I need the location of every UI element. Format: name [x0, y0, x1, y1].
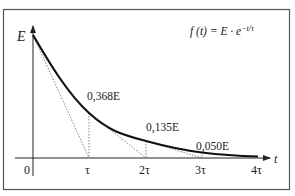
x-tick-4tau: 4τ — [251, 163, 262, 177]
x-tick-2tau: 2τ — [139, 163, 150, 177]
exponential-decay-diagram: E t 0 τ 2τ 3τ 4τ 0,368E 0,135E 0,050E f … — [0, 0, 295, 196]
x-tick-3tau: 3τ — [195, 163, 206, 177]
x-tick-tau: τ — [85, 163, 90, 177]
y-axis-label: E — [16, 29, 26, 44]
point-label-1tau: 0,368E — [87, 90, 120, 103]
point-label-3tau: 0,050E — [196, 140, 229, 153]
decay-curve — [33, 35, 258, 157]
formula: f (t) = E · e−t/τ — [190, 24, 255, 38]
x-axis-label: t — [274, 152, 278, 166]
origin-label: 0 — [24, 163, 30, 177]
point-label-2tau: 0,135E — [146, 121, 179, 134]
